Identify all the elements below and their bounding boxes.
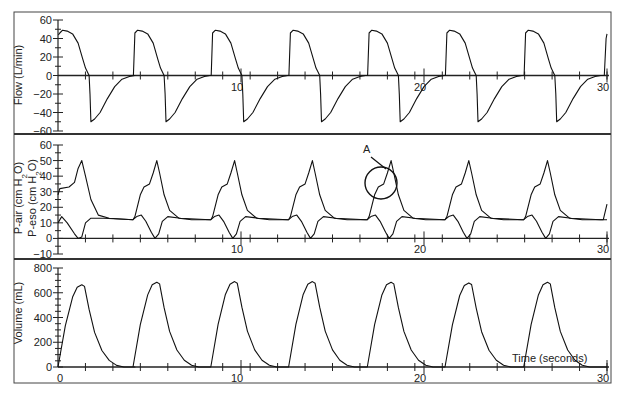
y-tick-label: 40: [40, 33, 52, 45]
y-tick-label: 30: [40, 186, 52, 198]
y-tick-label: −10: [33, 248, 52, 260]
x-tick-label: 0: [57, 372, 63, 384]
y-tick-label: 800: [34, 262, 52, 274]
y-tick-label: 60: [40, 139, 52, 151]
x-tick-label: 30: [597, 372, 609, 384]
x-tick-label: 10: [231, 81, 243, 93]
chart-frame: [14, 12, 611, 383]
volume-panel: 80060040020000102030: [34, 262, 609, 384]
time-axis-label: Time (seconds): [512, 352, 587, 364]
y-tick-label: −20: [33, 88, 52, 100]
x-tick-label: 10: [231, 372, 243, 384]
x-tick-label: 30: [597, 81, 609, 93]
y-tick-label: 0: [46, 70, 52, 82]
pressure-panel: 6050403020100−10102030: [33, 139, 609, 260]
x-tick-label: 30: [597, 243, 609, 255]
y-tick-label: 0: [46, 232, 52, 244]
ventilator-waveform-chart: 6040200−20−40−60102030 6050403020100−101…: [0, 0, 623, 394]
flow-panel: 6040200−20−40−60102030: [33, 14, 609, 137]
y-tick-label: 10: [40, 217, 52, 229]
volume-axis-label: Volume (mL): [12, 282, 24, 344]
annotation-label-a: A: [363, 143, 371, 155]
y-tick-label: 20: [40, 51, 52, 63]
y-tick-label: 60: [40, 14, 52, 26]
x-tick-label: 20: [414, 372, 426, 384]
y-tick-label: 600: [34, 287, 52, 299]
flow-axis-label: Flow (L/min): [12, 45, 24, 106]
x-tick-label: 20: [414, 243, 426, 255]
y-tick-label: 50: [40, 155, 52, 167]
y-tick-label: −40: [33, 107, 52, 119]
y-tick-label: 20: [40, 201, 52, 213]
y-tick-label: 400: [34, 312, 52, 324]
x-tick-label: 10: [231, 243, 243, 255]
y-tick-label: 200: [34, 336, 52, 348]
y-tick-label: −60: [33, 125, 52, 137]
y-tick-label: 0: [46, 361, 52, 373]
